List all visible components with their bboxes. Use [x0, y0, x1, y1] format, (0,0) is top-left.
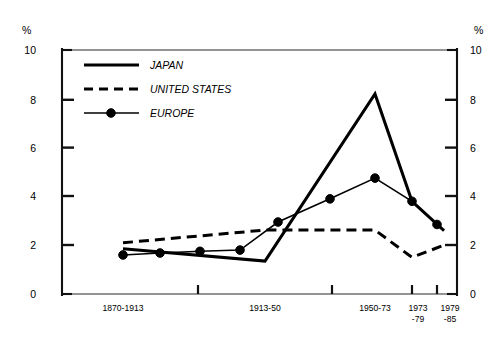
chart-container: % 10 8 6 4 2 0 % 10 8 6 4 2 0 1870-1913 … — [0, 0, 504, 342]
data-point-marker — [408, 197, 417, 206]
xtick-label-1973-line2: -79 — [412, 314, 425, 324]
ytick-right-label-10: 10 — [470, 44, 482, 56]
ytick-right-label-2: 2 — [470, 239, 476, 251]
data-point-marker — [156, 249, 165, 258]
y-axis-unit-right: % — [474, 24, 483, 36]
ytick-right-label-4: 4 — [470, 190, 476, 202]
data-point-marker — [371, 174, 380, 183]
series-markers-europe — [119, 174, 442, 259]
data-point-marker — [196, 247, 205, 256]
legend-label-united-states: UNITED STATES — [150, 83, 231, 95]
ytick-right-label-8: 8 — [470, 94, 476, 106]
ytick-label-10: 10 — [24, 44, 36, 56]
legend: JAPAN UNITED STATES EUROPE — [84, 59, 231, 119]
ytick-label-2: 2 — [30, 239, 36, 251]
ytick-label-8: 8 — [30, 94, 36, 106]
line-chart: % 10 8 6 4 2 0 % 10 8 6 4 2 0 1870-1913 … — [0, 0, 504, 342]
ytick-label-4: 4 — [30, 190, 36, 202]
xtick-label-1979-line1: 1979 — [440, 303, 459, 313]
y-axis-unit-left: % — [22, 24, 31, 36]
series-line-europe — [123, 178, 444, 255]
data-point-marker — [326, 195, 335, 204]
legend-marker-europe-dot-icon — [107, 109, 116, 118]
data-point-marker — [274, 218, 283, 227]
xtick-label-1979-line2: -85 — [444, 314, 457, 324]
data-point-marker — [236, 246, 245, 255]
data-point-marker — [433, 220, 442, 229]
ytick-right-label-6: 6 — [470, 142, 476, 154]
ytick-right-label-0: 0 — [470, 288, 476, 300]
xtick-label-1870-1913: 1870-1913 — [102, 303, 143, 313]
ytick-label-0: 0 — [30, 288, 36, 300]
legend-label-japan: JAPAN — [149, 59, 183, 71]
legend-label-europe: EUROPE — [150, 107, 195, 119]
xtick-label-1913-50: 1913-50 — [249, 303, 281, 313]
ytick-label-6: 6 — [30, 142, 36, 154]
data-point-marker — [119, 251, 128, 260]
xtick-label-1950-73: 1950-73 — [359, 303, 391, 313]
xtick-label-1973-line1: 1973 — [408, 303, 427, 313]
